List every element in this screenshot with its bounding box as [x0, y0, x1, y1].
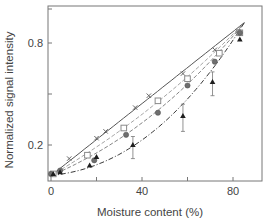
series-filled-circle-point: [237, 30, 242, 35]
y-tick-label: 0.2: [28, 139, 43, 151]
series-open-square-point: [185, 76, 191, 82]
series-filled-circle-point: [185, 83, 190, 88]
series-filled-circle-point: [212, 59, 217, 64]
series-filled-triangle-point: [237, 37, 243, 42]
series-filled-circle-point: [155, 110, 160, 115]
error-bars: [131, 72, 215, 159]
series-open-square-point: [155, 98, 161, 104]
series-x-solid-fit-line: [51, 23, 244, 176]
x-axis-ticks: 04080: [48, 177, 239, 197]
series-x-solid-point: [67, 156, 71, 160]
x-tick-label: 0: [48, 185, 54, 197]
fit-lines: [51, 23, 244, 176]
series-open-square-point: [217, 50, 223, 56]
y-tick-label: 0.8: [28, 37, 43, 49]
y-axis-label: Normalized signal intensity: [3, 31, 15, 168]
x-tick-label: 40: [136, 185, 148, 197]
series-x-solid-point: [181, 71, 185, 75]
series-open-square-point: [85, 152, 91, 158]
series-filled-triangle-point: [87, 162, 93, 167]
x-tick-label: 80: [227, 185, 239, 197]
x-axis-label: Moisture content (%): [97, 206, 203, 218]
series-filled-circle-point: [123, 132, 128, 137]
series-filled-triangle-point: [210, 79, 216, 84]
series-filled-triangle-point: [180, 113, 186, 118]
series-open-square-point: [121, 125, 127, 131]
chart: 04080 0.20.8 Moisture content (%) Normal…: [0, 0, 268, 223]
series-x-solid-point: [147, 94, 151, 98]
series-filled-triangle-point: [94, 154, 100, 159]
